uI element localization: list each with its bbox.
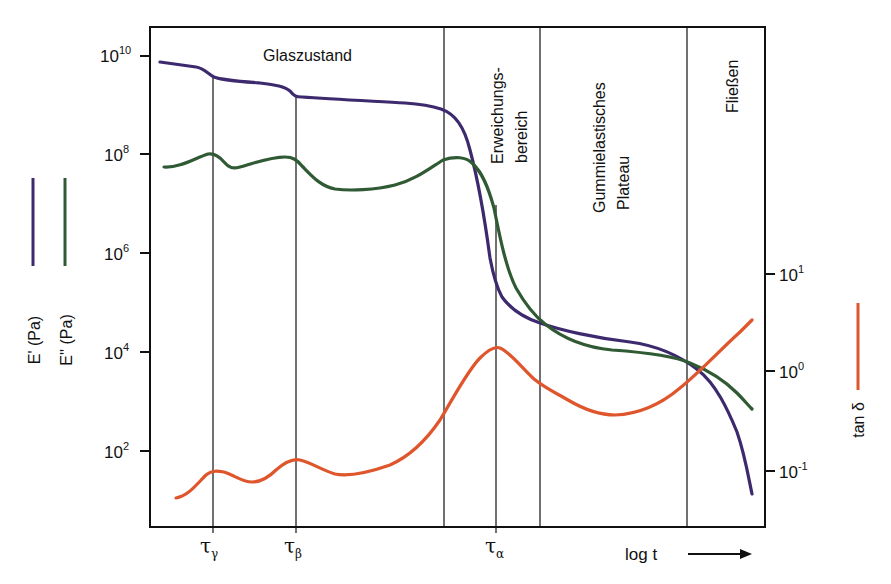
region-label-gummielastisches-2: Plateau xyxy=(615,156,632,210)
tau-alpha-label: τα xyxy=(485,534,504,561)
curve-e-loss xyxy=(164,154,752,409)
left-tick-1e10: 1010 xyxy=(100,44,131,66)
right-tick-1e1: 101 xyxy=(779,263,804,285)
region-label-erweichungsbereich-1: Erweichungs- xyxy=(489,67,506,164)
left-tick-1e8: 108 xyxy=(104,143,129,165)
curve-e-storage xyxy=(160,62,752,494)
legend-label-tan-delta: tan δ xyxy=(850,402,867,438)
legend-label-e-storage: E' (Pa) xyxy=(26,316,43,364)
x-axis-arrow-icon xyxy=(688,549,752,559)
region-label-glaszustand: Glaszustand xyxy=(263,47,352,64)
left-axis-ticks xyxy=(140,56,150,451)
tau-beta-label: τβ xyxy=(284,534,302,561)
region-label-gummielastisches-1: Gummielastisches xyxy=(591,82,608,213)
left-tick-1e2: 102 xyxy=(104,440,129,462)
region-label-erweichungsbereich-2: bereich xyxy=(513,111,530,163)
plot-frame xyxy=(150,27,765,527)
left-tick-1e4: 104 xyxy=(104,341,129,363)
tau-gamma-label: τγ xyxy=(200,534,218,561)
left-tick-1e6: 106 xyxy=(104,242,129,264)
legend-label-e-loss: E'' (Pa) xyxy=(58,314,75,365)
x-axis-label: log t xyxy=(625,545,657,564)
right-axis-ticks xyxy=(765,274,775,471)
right-tick-1e-1: 10-1 xyxy=(779,460,808,482)
region-label-fliessen: Fließen xyxy=(724,60,741,113)
curve-tan-delta xyxy=(176,320,752,498)
chart-canvas: E' (Pa) E'' (Pa) tan δ 1010 108 106 104 … xyxy=(0,0,891,584)
right-tick-1e0: 100 xyxy=(779,360,804,382)
